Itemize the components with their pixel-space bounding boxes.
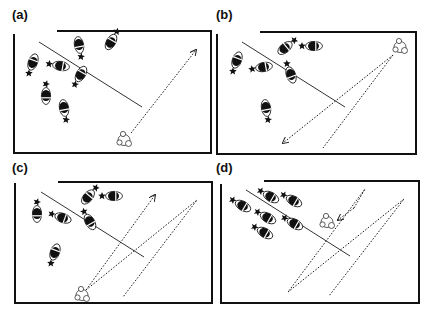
- cow-icon: [279, 212, 305, 232]
- cow-icon: [298, 41, 322, 51]
- cow-icon: [47, 208, 73, 225]
- panel-label: (b): [216, 7, 233, 22]
- cow-icon: [275, 34, 300, 57]
- star-icon: [62, 115, 70, 124]
- dog-icon: [75, 286, 90, 301]
- cow-icon: [248, 61, 274, 75]
- cow-icon: [73, 36, 87, 62]
- dog-icon: [117, 131, 132, 146]
- herding-diagram: (a) (b) (c) (d): [0, 0, 430, 313]
- cow-icon: [78, 206, 98, 232]
- panel-label: (c): [12, 160, 28, 175]
- dog-icon: [320, 213, 335, 228]
- panel-a: (a): [12, 7, 211, 153]
- star-icon: [248, 64, 257, 72]
- cow-icon: [252, 206, 278, 226]
- movement-path: [323, 55, 393, 148]
- star-icon: [298, 42, 306, 49]
- cow-icon: [255, 185, 281, 205]
- cow-icon: [41, 80, 51, 104]
- panel-label: (d): [216, 160, 233, 175]
- panel-label: (a): [12, 7, 28, 22]
- movement-path: [86, 200, 197, 297]
- cow-icon: [227, 50, 244, 76]
- cow-icon: [260, 99, 274, 125]
- cow-icon: [227, 194, 253, 214]
- movement-arrow: [283, 55, 393, 143]
- cow-icon: [98, 191, 122, 201]
- cow-icon: [103, 26, 123, 52]
- star-icon: [43, 80, 50, 88]
- star-icon: [77, 52, 85, 61]
- movement-path: [288, 189, 404, 296]
- cow-icon: [281, 59, 298, 85]
- star-icon: [264, 115, 272, 124]
- panel-b: (b): [216, 7, 416, 154]
- panel-c: (c): [12, 160, 212, 303]
- cow-icon: [69, 64, 89, 90]
- cow-icon: [23, 52, 40, 78]
- star-icon: [45, 59, 54, 67]
- star-icon: [34, 198, 41, 206]
- movement-arrow: [86, 195, 155, 290]
- movement-arrow: [338, 208, 354, 220]
- star-icon: [98, 192, 106, 199]
- cow-icon: [58, 99, 72, 125]
- barrier-line: [39, 42, 142, 107]
- cow-icon: [45, 59, 71, 73]
- movement-arrow: [131, 50, 196, 133]
- cow-icon: [32, 198, 42, 222]
- cow-icon: [278, 189, 304, 209]
- panel-d: (d): [216, 160, 419, 303]
- dog-icon: [393, 38, 408, 53]
- cow-icon: [79, 182, 102, 207]
- cow-icon: [45, 242, 62, 268]
- enclosure-frame: [221, 181, 419, 303]
